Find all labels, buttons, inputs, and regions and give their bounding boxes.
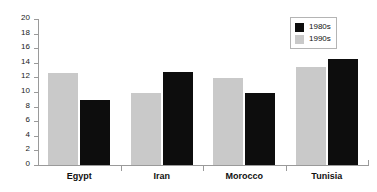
y-tick-label: 10 bbox=[21, 86, 30, 96]
legend-item-1980s[interactable]: 1980s bbox=[295, 21, 331, 33]
y-tick-label: 12 bbox=[21, 71, 30, 81]
x-category-label-egypt: Egypt bbox=[38, 171, 121, 181]
y-tick-label: 14 bbox=[21, 57, 30, 67]
legend-label-1980s: 1980s bbox=[309, 22, 331, 32]
legend-item-1990s[interactable]: 1990s bbox=[295, 33, 331, 45]
y-tick-label: 4 bbox=[26, 130, 30, 140]
legend-label-1990s: 1990s bbox=[309, 34, 331, 44]
y-tick-label: 8 bbox=[26, 101, 30, 111]
bar-iran-1990s bbox=[131, 93, 161, 165]
y-tick-label: 2 bbox=[26, 144, 30, 154]
y-tick-label: 16 bbox=[21, 42, 30, 52]
x-category-label-tunisia: Tunisia bbox=[286, 171, 369, 181]
chart-legend: 1980s 1990s bbox=[290, 17, 337, 49]
y-tick-label: 18 bbox=[21, 28, 30, 38]
y-tick-label: 6 bbox=[26, 115, 30, 125]
legend-swatch-1990s-icon bbox=[295, 35, 304, 44]
bar-egypt-1990s bbox=[48, 73, 78, 165]
bar-tunisia-1990s bbox=[296, 67, 326, 165]
bar-iran-1980s bbox=[163, 72, 193, 165]
bar-egypt-1980s bbox=[80, 100, 110, 165]
y-tick-label: 0 bbox=[26, 159, 30, 169]
bar-tunisia-1980s bbox=[328, 59, 358, 165]
bar-morocco-1980s bbox=[245, 93, 275, 165]
legend-swatch-1980s-icon bbox=[295, 23, 304, 32]
x-category-label-morocco: Morocco bbox=[203, 171, 286, 181]
bar-morocco-1990s bbox=[213, 78, 243, 165]
x-category-label-iran: Iran bbox=[121, 171, 204, 181]
x-axis-end-cap bbox=[368, 160, 369, 166]
y-tick-label: 20 bbox=[21, 13, 30, 23]
bar-chart: 02468101214161820 EgyptIranMoroccoTunisi… bbox=[0, 0, 377, 192]
